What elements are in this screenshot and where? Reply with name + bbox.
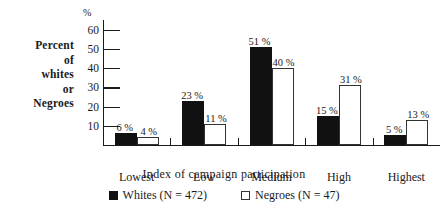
- bar-whites-medium: 51 %: [250, 47, 272, 145]
- bar-negroes-medium: 40 %: [272, 68, 294, 145]
- y-axis-tick-label: 20: [88, 101, 100, 113]
- y-axis-tick: 60: [104, 30, 120, 31]
- bar-value-label: 15 %: [316, 105, 338, 116]
- y-axis-tick-label: 50: [88, 43, 100, 55]
- legend-label-negroes: Negroes (N = 47): [255, 188, 339, 203]
- bar-chart-figure: Percent of whites or Negroes % 102030405…: [0, 0, 448, 216]
- group-separator-tick: [170, 138, 171, 145]
- y-axis-tick: 50: [104, 49, 120, 50]
- x-axis-title: Index of campaign participation: [0, 167, 448, 182]
- bar-value-label: 4 %: [140, 126, 157, 137]
- group-separator-tick: [373, 138, 374, 145]
- x-axis-line: [103, 145, 440, 146]
- bar-value-label: 5 %: [386, 124, 403, 135]
- bar-whites-highest: 5 %: [384, 135, 406, 145]
- bar-whites-low: 23 %: [182, 101, 204, 145]
- y-axis-label-line: of: [6, 53, 74, 68]
- bar-negroes-low: 11 %: [204, 124, 226, 145]
- y-axis-unit: %: [83, 7, 91, 18]
- bar-whites-high: 15 %: [317, 116, 339, 145]
- y-axis-tick-label: 60: [88, 24, 100, 36]
- legend-swatch-open-icon: [241, 191, 250, 200]
- group-separator-tick: [305, 138, 306, 145]
- y-axis-label-line: whites: [6, 67, 74, 82]
- legend-item-whites: Whites (N = 472): [109, 188, 207, 203]
- bar-negroes-high: 31 %: [339, 85, 361, 145]
- legend-item-negroes: Negroes (N = 47): [241, 188, 339, 203]
- y-axis-tick: 20: [104, 107, 120, 108]
- y-axis-tick-label: 10: [88, 120, 100, 132]
- bar-negroes-highest: 13 %: [406, 120, 428, 145]
- bar-value-label: 6 %: [116, 122, 133, 133]
- bar-negroes-lowest: 4 %: [137, 137, 159, 145]
- bar-value-label: 11 %: [205, 113, 226, 124]
- y-axis-tick-label: 30: [88, 81, 100, 93]
- group-separator-tick: [238, 138, 239, 145]
- chart-legend: Whites (N = 472) Negroes (N = 47): [0, 188, 448, 203]
- y-axis-label-line: Percent: [6, 38, 74, 53]
- y-axis-label-line: Negroes: [6, 96, 74, 111]
- bar-value-label: 13 %: [407, 109, 429, 120]
- legend-swatch-filled-icon: [109, 191, 118, 200]
- bar-value-label: 23 %: [181, 90, 203, 101]
- y-axis-label: Percent of whites or Negroes: [6, 38, 74, 111]
- plot-area: % 102030405060 6 %4 %23 %11 %51 %40 %15 …: [103, 20, 440, 145]
- bar-value-label: 31 %: [340, 74, 362, 85]
- y-axis-tick: 40: [104, 68, 120, 69]
- bar-whites-lowest: 6 %: [115, 133, 137, 145]
- y-axis-label-line: or: [6, 82, 74, 97]
- bar-value-label: 51 %: [249, 36, 271, 47]
- y-axis-tick-label: 40: [88, 62, 100, 74]
- bar-value-label: 40 %: [273, 57, 295, 68]
- y-axis-tick: 30: [104, 87, 120, 88]
- legend-label-whites: Whites (N = 472): [123, 188, 207, 203]
